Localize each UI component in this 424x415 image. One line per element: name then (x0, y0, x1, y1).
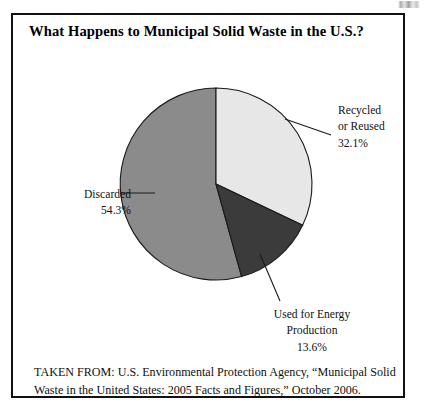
slice-value-recycled: 32.1% (338, 136, 385, 152)
slice-value-discarded: 54.3% (35, 203, 131, 219)
figure-frame: What Happens to Municipal Solid Waste in… (11, 13, 405, 398)
slice-label-energy-line2: Production (251, 323, 373, 339)
slice-label-recycled: Recycled or Reused 32.1% (338, 103, 385, 152)
slice-label-energy-line1: Used for Energy (251, 307, 373, 323)
pie-chart: Recycled or Reused 32.1% Discarded 54.3%… (13, 15, 407, 400)
slice-label-discarded: Discarded 54.3% (35, 187, 131, 220)
slice-label-energy: Used for Energy Production 13.6% (251, 307, 373, 356)
slice-value-energy: 13.6% (251, 340, 373, 356)
slice-label-recycled-line2: or Reused (338, 119, 385, 135)
slice-label-discarded-name: Discarded (35, 187, 131, 203)
slice-label-recycled-line1: Recycled (338, 103, 385, 119)
scan-artifact (398, 1, 420, 8)
source-citation: TAKEN FROM: U.S. Environmental Protectio… (34, 363, 406, 399)
